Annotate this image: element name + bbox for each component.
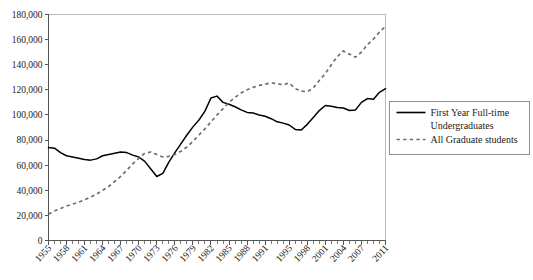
y-tick-label: 60,000: [16, 161, 42, 171]
line-chart: 020,00040,00060,00080,000100,000120,0001…: [0, 0, 533, 280]
legend-label-continued: Undergraduates: [431, 120, 494, 131]
y-tick-label: 0: [38, 236, 43, 246]
y-tick-label: 180,000: [12, 10, 43, 20]
y-tick-label: 140,000: [12, 60, 43, 70]
y-tick-label: 100,000: [12, 110, 43, 120]
y-tick-label: 20,000: [16, 211, 42, 221]
y-tick-label: 40,000: [16, 186, 42, 196]
y-tick-label: 80,000: [16, 135, 42, 145]
y-tick-label: 120,000: [12, 85, 43, 95]
chart-legend: First Year Full-timeUndergraduatesAll Gr…: [390, 102, 530, 155]
chart-container: 020,00040,00060,00080,000100,000120,0001…: [0, 0, 533, 280]
legend-label: All Graduate students: [431, 134, 518, 145]
legend-label: First Year Full-time: [431, 107, 510, 118]
y-tick-label: 160,000: [12, 35, 43, 45]
